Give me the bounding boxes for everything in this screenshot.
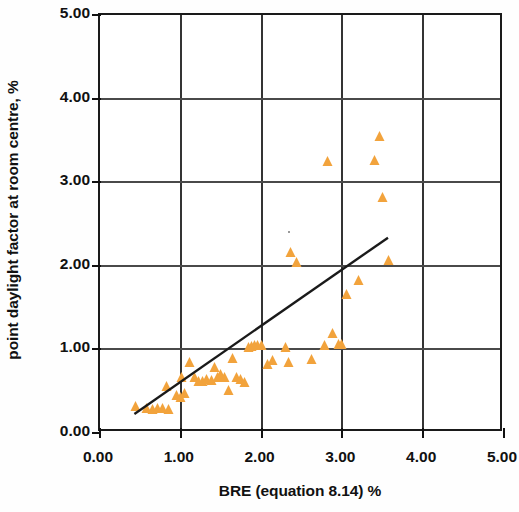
trendline — [100, 15, 500, 429]
y-axis-tick-label: 4.00 — [28, 88, 90, 106]
x-axis-tick-labels: 0.001.002.003.004.005.00 — [0, 448, 519, 472]
x-axis-tick-mark — [422, 428, 424, 438]
plot-area — [98, 13, 502, 431]
y-axis-tick-label: 2.00 — [28, 255, 90, 273]
x-axis-tick-mark — [503, 428, 505, 438]
scatter-chart-figure: point daylight factor at room centre, % … — [0, 0, 519, 512]
y-axis-tick-label: 5.00 — [28, 4, 90, 22]
y-axis-tick-labels: 0.001.002.003.004.005.00 — [22, 0, 90, 512]
y-axis-tick-label: 0.00 — [28, 422, 90, 440]
x-axis-title: BRE (equation 8.14) % — [98, 482, 502, 500]
x-axis-tick-mark — [180, 428, 182, 438]
x-axis-tick-mark — [99, 428, 101, 438]
x-axis-tick-label: 2.00 — [220, 448, 300, 466]
y-axis-tick-label: 1.00 — [28, 338, 90, 356]
x-axis-tick-label: 3.00 — [300, 448, 380, 466]
x-axis-tick-mark — [261, 428, 263, 438]
x-axis-tick-mark — [341, 428, 343, 438]
y-axis-tick-label: 3.00 — [28, 171, 90, 189]
x-axis-tick-label: 0.00 — [58, 448, 138, 466]
x-axis-tick-label: 5.00 — [462, 448, 519, 466]
x-axis-tick-label: 1.00 — [139, 448, 219, 466]
x-axis-tick-label: 4.00 — [381, 448, 461, 466]
